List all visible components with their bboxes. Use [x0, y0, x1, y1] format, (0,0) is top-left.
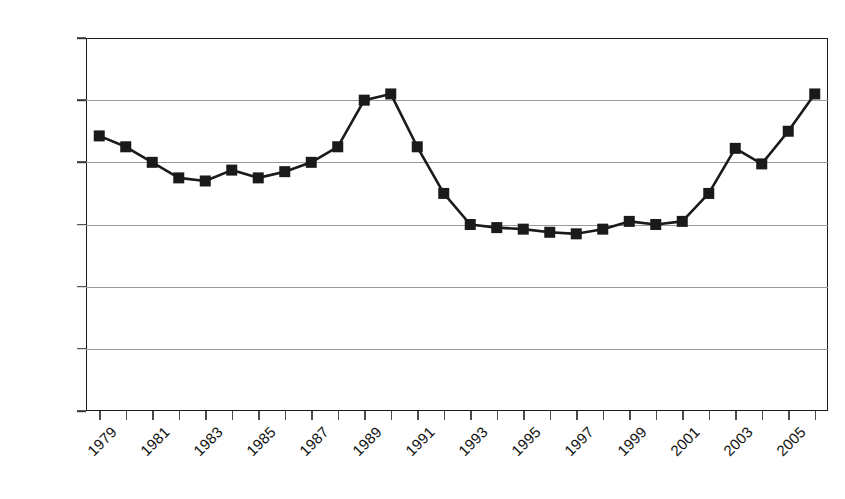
x-tick-mark	[338, 411, 340, 420]
x-tick-mark	[762, 411, 764, 420]
data-point-marker	[359, 95, 370, 106]
y-tick-mark	[77, 37, 86, 39]
x-tick-mark	[815, 411, 817, 420]
data-point-marker	[730, 143, 741, 154]
data-point-marker	[173, 172, 184, 183]
data-point-marker	[491, 222, 502, 233]
data-point-marker	[571, 228, 582, 239]
data-point-marker	[650, 219, 661, 230]
y-tick-mark	[77, 224, 86, 226]
x-tick-mark	[497, 411, 499, 420]
x-tick-mark	[99, 411, 101, 420]
x-tick-mark	[232, 411, 234, 420]
x-tick-mark	[576, 411, 578, 420]
y-tick-mark	[77, 348, 86, 350]
data-point-marker	[465, 219, 476, 230]
data-point-marker	[306, 157, 317, 168]
x-tick-mark	[709, 411, 711, 420]
chart-figure: 800100012001400160018002000 197919811983…	[0, 0, 845, 499]
x-tick-mark	[523, 411, 525, 420]
data-markers-group	[94, 88, 821, 239]
x-tick-mark	[205, 411, 207, 420]
x-tick-mark	[391, 411, 393, 420]
data-point-marker	[783, 126, 794, 137]
x-tick-mark	[126, 411, 128, 420]
data-point-marker	[253, 172, 264, 183]
x-tick-mark	[470, 411, 472, 420]
data-point-marker	[120, 141, 131, 152]
x-tick-mark	[788, 411, 790, 420]
y-tick-mark	[77, 99, 86, 101]
x-tick-mark	[285, 411, 287, 420]
data-point-marker	[756, 158, 767, 169]
data-point-marker	[332, 141, 343, 152]
data-point-marker	[438, 188, 449, 199]
data-point-marker	[279, 166, 290, 177]
x-tick-mark	[417, 411, 419, 420]
data-point-marker	[703, 188, 714, 199]
data-point-marker	[412, 141, 423, 152]
x-tick-mark	[152, 411, 154, 420]
x-tick-mark	[311, 411, 313, 420]
data-point-marker	[544, 227, 555, 238]
data-point-marker	[597, 224, 608, 235]
data-point-marker	[677, 216, 688, 227]
y-tick-mark	[77, 410, 86, 412]
x-tick-mark	[444, 411, 446, 420]
x-tick-mark	[603, 411, 605, 420]
data-point-marker	[147, 157, 158, 168]
x-tick-mark	[682, 411, 684, 420]
data-point-marker	[624, 216, 635, 227]
x-tick-mark	[656, 411, 658, 420]
x-tick-mark	[258, 411, 260, 420]
data-line	[99, 94, 815, 234]
x-tick-mark	[550, 411, 552, 420]
data-series-svg	[86, 38, 828, 411]
x-tick-mark	[735, 411, 737, 420]
data-point-marker	[200, 175, 211, 186]
data-point-marker	[226, 165, 237, 176]
x-tick-mark	[629, 411, 631, 420]
plot-area: 800100012001400160018002000 197919811983…	[86, 38, 828, 411]
data-point-marker	[94, 130, 105, 141]
y-tick-mark	[77, 286, 86, 288]
data-point-marker	[809, 88, 820, 99]
x-tick-mark	[179, 411, 181, 420]
data-point-marker	[385, 88, 396, 99]
y-tick-mark	[77, 162, 86, 164]
x-tick-mark	[364, 411, 366, 420]
data-point-marker	[518, 224, 529, 235]
